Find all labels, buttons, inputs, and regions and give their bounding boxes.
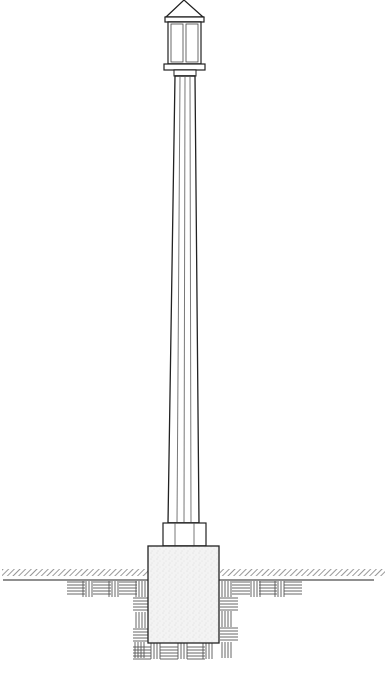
lamp-post-diagram xyxy=(0,0,387,679)
footing xyxy=(148,546,219,643)
shaft xyxy=(168,76,199,523)
soil-hatch-right xyxy=(220,581,302,658)
soil-hatch-left xyxy=(67,581,151,659)
grade-left xyxy=(2,569,148,580)
lantern-roof xyxy=(165,0,204,22)
pedestal xyxy=(163,523,206,546)
lantern-base xyxy=(164,64,205,76)
grade-right xyxy=(219,569,385,580)
lantern-body xyxy=(168,22,201,64)
soil-hatch-bottom xyxy=(151,643,212,659)
